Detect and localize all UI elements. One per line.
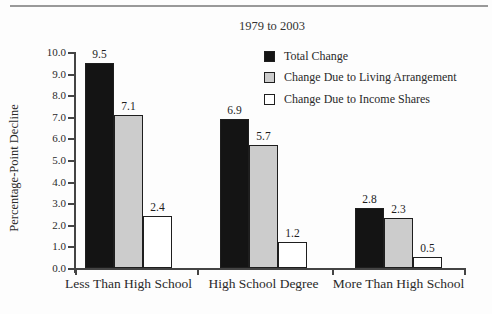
y-tick-label: 8.0 <box>30 89 66 102</box>
bar-value-label: 5.7 <box>247 130 281 143</box>
bar-total-change <box>355 208 384 268</box>
y-tick-label: 1.0 <box>30 240 66 253</box>
category-label: Less Than High School <box>65 276 192 292</box>
y-tick-mark <box>68 117 74 119</box>
bar-value-label: 2.4 <box>141 201 175 214</box>
y-tick-mark <box>68 138 74 140</box>
bar-change-due-to-income-shares <box>413 257 442 268</box>
y-tick-label: 2.0 <box>30 219 66 232</box>
x-tick-mark <box>464 270 466 275</box>
y-tick-label: 0.0 <box>30 262 66 275</box>
x-tick-mark <box>75 270 77 275</box>
legend-label: Change Due to Living Arrangement <box>284 70 457 84</box>
bar-change-due-to-living-arrangement <box>114 115 143 268</box>
y-tick-label: 10.0 <box>30 46 66 59</box>
legend-label: Change Due to Income Shares <box>284 92 430 106</box>
category-label: High School Degree <box>208 276 318 292</box>
y-tick-label: 9.0 <box>30 68 66 81</box>
y-tick-label: 6.0 <box>30 132 66 145</box>
x-tick-mark <box>332 270 334 275</box>
y-tick-mark <box>68 52 74 54</box>
y-tick-mark <box>68 203 74 205</box>
bar-value-label: 2.3 <box>382 203 416 216</box>
bar-value-label: 9.5 <box>83 48 117 61</box>
y-tick-label: 4.0 <box>30 176 66 189</box>
y-tick-mark <box>68 160 74 162</box>
bar-value-label: 0.5 <box>411 242 445 255</box>
bar-value-label: 1.2 <box>276 227 310 240</box>
top-rule <box>10 5 488 7</box>
y-tick-label: 3.0 <box>30 197 66 210</box>
figure: 1979 to 2003 Percentage-Point Decline 0.… <box>0 0 492 314</box>
y-tick-label: 5.0 <box>30 154 66 167</box>
bar-total-change <box>85 63 114 268</box>
category-label: More Than High School <box>333 276 464 292</box>
bar-change-due-to-living-arrangement <box>384 218 413 268</box>
bar-change-due-to-income-shares <box>143 216 172 268</box>
x-tick-mark <box>197 270 199 275</box>
bar-change-due-to-living-arrangement <box>249 145 278 268</box>
bar-value-label: 7.1 <box>112 100 146 113</box>
y-tick-mark <box>68 95 74 97</box>
bar-value-label: 6.9 <box>218 104 252 117</box>
y-tick-mark <box>68 182 74 184</box>
y-tick-mark <box>68 225 74 227</box>
legend-swatch-3 <box>264 94 275 105</box>
y-tick-mark <box>68 74 74 76</box>
x-axis-line <box>74 268 466 270</box>
bar-change-due-to-income-shares <box>278 242 307 268</box>
y-tick-mark <box>68 268 74 270</box>
y-tick-label: 7.0 <box>30 111 66 124</box>
legend-swatch-2 <box>264 72 275 83</box>
y-axis-line <box>74 52 76 273</box>
legend-label: Total Change <box>284 49 348 63</box>
legend-swatch-1 <box>264 51 275 62</box>
bar-total-change <box>220 119 249 268</box>
y-axis-label: Percentage-Point Decline <box>7 104 22 231</box>
chart-title: 1979 to 2003 <box>239 19 305 34</box>
y-tick-mark <box>68 246 74 248</box>
